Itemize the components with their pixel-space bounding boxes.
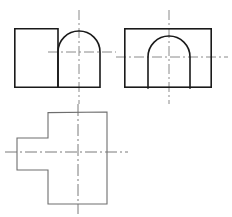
engineering-drawing-canvas: [0, 0, 232, 217]
front-view: [15, 10, 116, 104]
side-inner-arch: [148, 36, 190, 88]
front-rect-left: [15, 29, 58, 87]
top-view: [5, 104, 128, 214]
top-cross-outline: [17, 112, 107, 204]
orthographic-projection-svg: [0, 0, 232, 217]
side-outer-rect: [125, 29, 211, 87]
side-view: [116, 10, 228, 104]
